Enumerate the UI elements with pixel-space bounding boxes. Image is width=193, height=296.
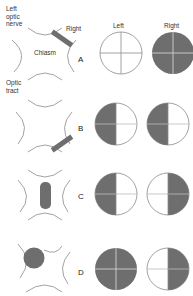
field-c-left: [95, 173, 137, 215]
label-optic-tract: Optic tract: [6, 79, 21, 94]
field-b-right: [147, 103, 189, 145]
field-a-left: [100, 32, 142, 74]
label-line: Optic: [6, 79, 21, 87]
column-header-right: Right: [164, 22, 179, 30]
chiasm-d: [18, 244, 70, 292]
column-header-left: Left: [113, 22, 124, 30]
label-line: nerve: [6, 20, 22, 28]
field-a-right: [152, 32, 193, 74]
label-chiasm: Chiasm: [34, 49, 56, 57]
field-b-left: [95, 103, 137, 145]
label-left-optic-nerve: Left optic nerve: [6, 5, 22, 28]
row-letter-c: C: [78, 192, 84, 201]
label-line: tract: [6, 87, 21, 95]
field-d-right: [147, 248, 189, 290]
field-c-right: [147, 173, 189, 215]
field-d-left: [95, 248, 137, 290]
row-letter-b: B: [78, 124, 83, 133]
row-letter-d: D: [78, 268, 84, 277]
label-line: optic: [6, 13, 22, 21]
row-letter-a: A: [78, 55, 83, 64]
lesion-c: [40, 182, 51, 209]
label-right-lesion: Right: [66, 25, 81, 33]
diagram-canvas: [0, 0, 193, 296]
lesion-d: [24, 248, 45, 269]
label-line: Left: [6, 5, 22, 13]
